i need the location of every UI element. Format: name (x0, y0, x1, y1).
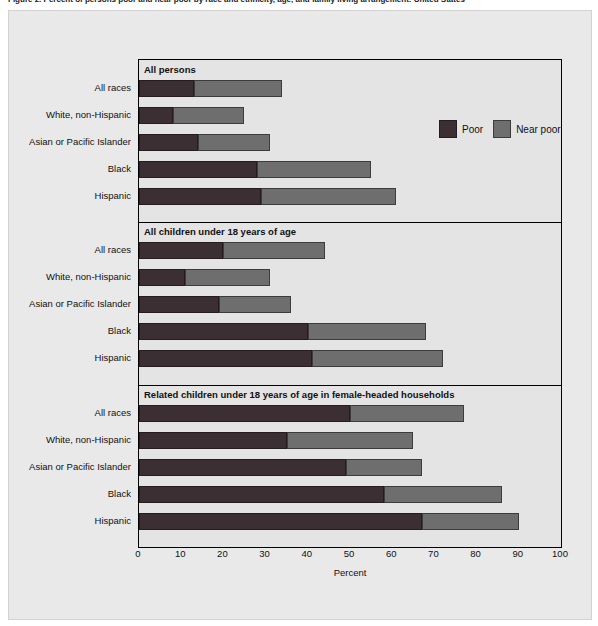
bar-segment-near-poor (384, 486, 502, 503)
category-label: All races (9, 241, 135, 258)
bar-segment-poor (139, 513, 422, 530)
legend-label-near-poor: Near poor (516, 124, 560, 135)
category-label: Hispanic (9, 187, 135, 204)
bar-segment-near-poor (185, 269, 269, 286)
bar-segment-near-poor (198, 134, 270, 151)
bar-segment-near-poor (312, 350, 443, 367)
bar-row (139, 296, 561, 313)
panel-title: All children under 18 years of age (144, 226, 296, 238)
bar-segment-near-poor (223, 242, 324, 259)
panel-title: All persons (144, 64, 196, 76)
bar-row (139, 188, 561, 205)
bar-segment-poor (139, 134, 198, 151)
bar-segment-near-poor (350, 405, 464, 422)
bar-row (139, 269, 561, 286)
category-label: Black (9, 485, 135, 502)
bar-segment-poor (139, 161, 257, 178)
bar-segment-near-poor (346, 459, 422, 476)
category-label: White, non-Hispanic (9, 268, 135, 285)
x-tick-label: 100 (545, 548, 575, 559)
bar-segment-poor (139, 269, 185, 286)
bar-segment-near-poor (287, 432, 414, 449)
x-tick-label: 60 (376, 548, 406, 559)
panel-separator (139, 222, 561, 223)
x-tick-label: 20 (207, 548, 237, 559)
category-label: Asian or Pacific Islander (9, 133, 135, 150)
category-label: Hispanic (9, 349, 135, 366)
category-label: All races (9, 404, 135, 421)
bar-segment-near-poor (422, 513, 519, 530)
x-tick-label: 80 (461, 548, 491, 559)
bar-segment-poor (139, 459, 346, 476)
bar-segment-poor (139, 350, 312, 367)
bar-row (139, 432, 561, 449)
x-axis-ticks: 0102030405060708090100 (138, 548, 562, 562)
category-label: Hispanic (9, 512, 135, 529)
bar-segment-near-poor (173, 107, 245, 124)
bar-segment-near-poor (194, 80, 283, 97)
category-label: Asian or Pacific Islander (9, 295, 135, 312)
bar-row (139, 242, 561, 259)
legend-label-poor: Poor (462, 124, 483, 135)
bar-row (139, 80, 561, 97)
category-label: White, non-Hispanic (9, 106, 135, 123)
bar-row (139, 459, 561, 476)
bar-segment-poor (139, 107, 173, 124)
bar-segment-near-poor (257, 161, 371, 178)
x-tick-label: 40 (292, 548, 322, 559)
x-axis-title: Percent (138, 567, 562, 578)
bar-segment-poor (139, 486, 384, 503)
bar-segment-poor (139, 188, 261, 205)
category-label: All races (9, 79, 135, 96)
bar-row (139, 134, 561, 151)
bar-row (139, 323, 561, 340)
bar-segment-poor (139, 323, 308, 340)
bar-segment-near-poor (219, 296, 291, 313)
bar-segment-poor (139, 432, 287, 449)
category-label: White, non-Hispanic (9, 431, 135, 448)
bar-segment-poor (139, 296, 219, 313)
bar-row (139, 107, 561, 124)
chart-card: Poor Near poor All personsAll children u… (8, 10, 592, 620)
x-tick-label: 30 (250, 548, 280, 559)
category-label: Asian or Pacific Islander (9, 458, 135, 475)
bar-segment-near-poor (308, 323, 426, 340)
bar-segment-poor (139, 80, 194, 97)
bar-row (139, 486, 561, 503)
bar-row (139, 405, 561, 422)
bar-segment-poor (139, 242, 223, 259)
category-label: Black (9, 322, 135, 339)
panel-separator (139, 385, 561, 386)
panel-title: Related children under 18 years of age i… (144, 389, 454, 401)
x-tick-label: 90 (503, 548, 533, 559)
x-tick-label: 0 (123, 548, 153, 559)
figure-caption: Figure 2. Percent of persons poor and ne… (8, 0, 594, 6)
bar-segment-poor (139, 405, 350, 422)
x-tick-label: 50 (334, 548, 364, 559)
bar-segment-near-poor (261, 188, 396, 205)
bar-row (139, 513, 561, 530)
x-tick-label: 10 (165, 548, 195, 559)
x-tick-label: 70 (418, 548, 448, 559)
bar-row (139, 350, 561, 367)
category-label: Black (9, 160, 135, 177)
figure-root: Figure 2. Percent of persons poor and ne… (0, 0, 598, 626)
plot-area: Poor Near poor All personsAll children u… (138, 59, 562, 548)
bar-row (139, 161, 561, 178)
